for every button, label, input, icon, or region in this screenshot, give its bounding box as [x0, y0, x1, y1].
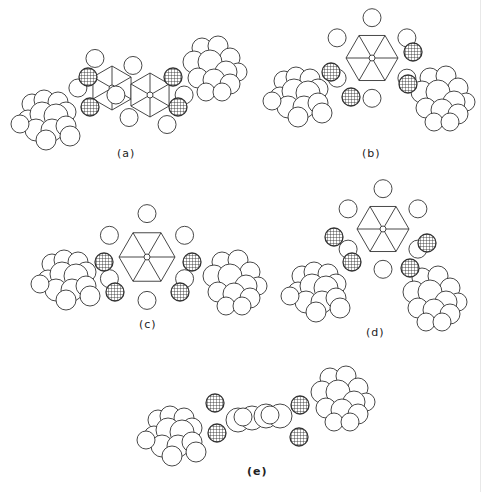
atom — [197, 83, 215, 101]
molecule-panel-c — [31, 205, 267, 315]
atom — [234, 408, 252, 426]
oxygen-atom — [291, 396, 309, 414]
atom — [281, 287, 299, 305]
atom — [217, 297, 235, 315]
oxygen-atom — [290, 428, 308, 446]
atom — [409, 200, 427, 218]
atom — [441, 113, 459, 131]
oxygen-atom — [95, 253, 113, 271]
atom — [86, 49, 104, 67]
oxygen-atom — [164, 68, 182, 86]
molecule-panel-a — [11, 36, 247, 150]
oxygen-atom — [79, 68, 97, 86]
oxygen-atom — [343, 253, 361, 271]
atom — [325, 413, 343, 431]
atom — [306, 302, 326, 322]
atom — [80, 286, 100, 306]
oxygen-atom — [206, 394, 224, 412]
oxygen-atom — [183, 253, 201, 271]
oxygen-atom — [399, 75, 417, 93]
atom — [213, 83, 231, 101]
oxygen-atom — [401, 259, 419, 277]
atom — [158, 116, 176, 134]
atom — [312, 103, 332, 123]
molecular-models-figure — [0, 0, 483, 492]
atom — [100, 226, 118, 244]
panel-label-e: (e) — [247, 465, 268, 478]
atom — [107, 86, 125, 104]
atom — [288, 107, 308, 127]
oxygen-atom — [171, 283, 189, 301]
atom — [263, 92, 281, 110]
atom — [176, 226, 194, 244]
molecule-panel-b — [263, 9, 475, 131]
panel-label-b: (b) — [362, 147, 381, 160]
atom — [11, 115, 29, 133]
atom — [425, 113, 443, 131]
panel-label-a: (a) — [117, 147, 135, 160]
atom — [138, 205, 156, 223]
oxygen-atom — [322, 63, 340, 81]
atom — [147, 92, 153, 98]
atom — [328, 29, 346, 47]
atom — [339, 200, 357, 218]
atom — [36, 130, 56, 150]
molecule-panel-d — [281, 180, 467, 331]
atom — [233, 297, 251, 315]
oxygen-atom — [404, 43, 422, 61]
atom — [56, 290, 76, 310]
atom — [341, 413, 359, 431]
panel-label-d: (d) — [366, 326, 385, 339]
oxygen-atom — [208, 424, 226, 442]
atom — [380, 226, 386, 232]
atom — [31, 275, 49, 293]
scan-edge-line — [480, 0, 481, 492]
panel-label-c: (c) — [139, 318, 157, 331]
atom — [363, 89, 381, 107]
atom — [60, 126, 80, 146]
oxygen-atom — [325, 228, 343, 246]
atom — [120, 109, 138, 127]
atom — [433, 313, 451, 331]
oxygen-atom — [106, 283, 124, 301]
oxygen-atom — [342, 88, 360, 106]
oxygen-atom — [81, 98, 99, 116]
atom — [330, 298, 350, 318]
atom — [186, 442, 206, 462]
atom — [124, 56, 142, 74]
oxygen-atom — [169, 98, 187, 116]
atom — [261, 406, 279, 424]
atom — [363, 9, 381, 27]
molecule-panel-e — [137, 366, 375, 466]
atom — [369, 55, 375, 61]
atom — [374, 180, 392, 198]
atom — [374, 260, 392, 278]
atom — [162, 446, 182, 466]
oxygen-atom — [418, 234, 436, 252]
atom — [144, 254, 150, 260]
atom — [417, 313, 435, 331]
atom — [138, 291, 156, 309]
atom — [137, 431, 155, 449]
